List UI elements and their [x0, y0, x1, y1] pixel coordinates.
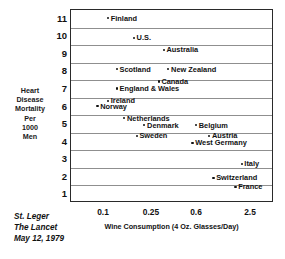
gridline: [71, 150, 272, 151]
data-point: France: [234, 183, 262, 191]
data-point-label: Belgium: [199, 121, 228, 130]
data-point: Denmark: [143, 122, 178, 130]
data-point-label: Switzerland: [216, 173, 257, 182]
chart-page: HeartDiseaseMortalityPer1000Men 12345678…: [0, 0, 285, 259]
data-point-marker: [212, 177, 214, 179]
gridline: [71, 133, 272, 134]
data-point: Australia: [163, 46, 198, 54]
y-axis-title-line: Mortality: [2, 104, 58, 113]
y-axis-tick-label: 9: [52, 47, 67, 58]
gridline: [71, 115, 272, 116]
y-axis-tick-label: 11: [52, 12, 67, 23]
data-point-marker: [195, 124, 197, 126]
data-point-label: Finland: [111, 14, 137, 23]
y-axis-tick-label: 1: [52, 188, 67, 199]
data-point: Italy: [241, 160, 260, 168]
plot-area: FinlandU.S.AustraliaScotlandNew ZealandC…: [70, 9, 273, 202]
y-axis-tick-label: 4: [52, 135, 67, 146]
data-point-marker: [158, 80, 160, 82]
x-axis-tick-label: 2.5: [244, 207, 256, 217]
data-point-label: Denmark: [147, 121, 179, 130]
gridline: [71, 98, 272, 99]
data-point-marker: [191, 142, 193, 144]
y-axis-title-line: Men: [2, 132, 58, 141]
data-point: England & Wales: [116, 85, 179, 93]
data-point-marker: [123, 117, 125, 119]
data-point-marker: [241, 163, 243, 165]
source-citation-line: May 12, 1979: [14, 233, 64, 244]
source-citation-line: St. Leger: [14, 211, 64, 222]
data-point-label: U.S.: [137, 33, 151, 42]
x-axis-tick-label: 0.25: [143, 207, 159, 217]
y-axis-tick-label: 5: [52, 118, 67, 129]
data-point: West Germany: [191, 139, 246, 147]
y-axis-tick-label: 10: [52, 30, 67, 41]
data-point-label: Norway: [100, 102, 127, 111]
data-point-marker: [167, 68, 169, 70]
data-point-label: West Germany: [195, 138, 247, 147]
source-citation: St. LegerThe LancetMay 12, 1979: [14, 211, 64, 244]
x-axis-tick-label: 0.1: [97, 207, 109, 217]
y-axis-tick-label: 8: [52, 65, 67, 76]
y-axis-title-line: Per: [2, 114, 58, 123]
data-point-marker: [136, 135, 138, 137]
data-point: Norway: [96, 102, 126, 110]
y-axis-tick-label: 6: [52, 100, 67, 111]
y-axis-title-line: Heart: [2, 86, 58, 95]
data-point: Scotland: [116, 66, 151, 74]
data-point-marker: [96, 105, 98, 107]
y-axis-title-line: 1000: [2, 123, 58, 132]
data-point-marker: [133, 36, 135, 38]
data-point-marker: [234, 186, 236, 188]
data-point-label: Australia: [166, 45, 198, 54]
data-point-label: Sweden: [139, 131, 167, 140]
x-axis-title: Wine Consumption (4 Oz. Glasses/Day): [70, 222, 273, 231]
x-axis-tick-label: 0.6: [190, 207, 202, 217]
gridline: [71, 28, 272, 29]
data-point-label: New Zealand: [171, 65, 216, 74]
data-point: Sweden: [136, 132, 168, 140]
data-point-label: France: [238, 182, 262, 191]
data-point-marker: [163, 49, 165, 51]
data-point: Belgium: [195, 122, 228, 130]
data-point-label: England & Wales: [120, 84, 180, 93]
y-axis-title-line: Disease: [2, 95, 58, 104]
data-point-marker: [116, 87, 118, 89]
data-point-label: Italy: [244, 159, 259, 168]
data-point-marker: [208, 135, 210, 137]
y-axis-title: HeartDiseaseMortalityPer1000Men: [2, 86, 58, 141]
data-point-marker: [116, 68, 118, 70]
data-point-marker: [107, 17, 109, 19]
y-axis-tick-label: 3: [52, 153, 67, 164]
data-point-marker: [143, 124, 145, 126]
data-point: New Zealand: [167, 66, 216, 74]
data-point: U.S.: [133, 34, 151, 42]
source-citation-line: The Lancet: [14, 222, 64, 233]
data-point: Finland: [107, 15, 137, 23]
y-axis-tick-label: 2: [52, 170, 67, 181]
data-point-label: Scotland: [120, 65, 151, 74]
gridline: [71, 63, 272, 64]
y-axis-tick-label: 7: [52, 82, 67, 93]
